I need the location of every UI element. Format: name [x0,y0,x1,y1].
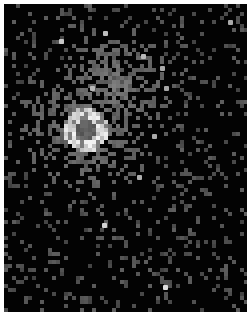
pixel [204,148,208,152]
pixel [180,36,184,40]
pixel [24,64,28,68]
pixel [4,308,8,312]
pixel [80,28,84,32]
pixel [188,180,192,184]
pixel [188,280,192,284]
pixel [100,212,104,216]
pixel [144,20,148,24]
pixel [36,140,40,144]
pixel [64,48,68,52]
pixel [68,208,72,212]
pixel [152,28,156,32]
point-source [102,223,107,228]
pixel [244,60,247,64]
pixel [204,240,208,244]
pixel [160,184,164,188]
pixel [112,180,116,184]
pixel [28,132,32,136]
pixel [164,156,168,160]
pixel [144,144,148,148]
pixel [12,20,16,24]
pixel [168,300,172,304]
pixel [56,236,60,240]
pixel [212,48,216,52]
pixel [128,132,132,136]
pixel [140,132,144,136]
pixel [200,20,204,24]
pixel [140,152,144,156]
pixel [136,124,140,128]
pixel [12,288,16,292]
pixel [224,176,228,180]
pixel [128,216,132,220]
pixel [224,140,228,144]
pixel [136,88,140,92]
pixel [128,180,132,184]
pixel [188,152,192,156]
pixel [8,256,12,260]
pixel [172,252,176,256]
pixel [192,196,196,200]
pixel [60,88,64,92]
pixel [32,44,36,48]
pixel [148,152,152,156]
pixel [160,76,164,80]
pixel [36,224,40,228]
pixel [80,80,84,84]
pixel [148,124,152,128]
pixel [68,184,72,188]
pixel [64,296,68,300]
pixel [192,12,196,16]
pixel [232,152,236,156]
pixel [156,116,160,120]
pixel [72,16,76,20]
pixel [64,240,68,244]
pixel [32,276,36,280]
pixel [228,212,232,216]
pixel [8,132,12,136]
pixel [148,248,152,252]
pixel [168,100,172,104]
pixel [236,308,240,312]
pixel [192,232,196,236]
pixel [180,160,184,164]
pixel [120,132,124,136]
pixel [236,88,240,92]
pixel [244,300,247,304]
pixel [52,112,56,116]
pixel [240,156,244,160]
pixel [136,260,140,264]
pixel [72,296,76,300]
pixel [132,156,136,160]
pixel [212,216,216,220]
pixel [200,140,204,144]
pixel [196,244,200,248]
pixel [184,104,188,108]
pixel [156,176,160,180]
pixel [108,132,112,136]
pixel [48,192,52,196]
pixel [28,12,32,16]
pixel [224,276,228,280]
pixel [56,148,60,152]
pixel [180,128,184,132]
pixel [196,128,200,132]
pixel [88,264,92,268]
pixel [184,44,188,48]
pixel [208,144,212,148]
pixel [92,308,96,312]
pixel [28,196,32,200]
pixel [12,96,16,100]
pixel [108,264,112,268]
pixel [44,16,48,20]
pixel [84,48,88,52]
pixel [24,184,28,188]
pixel [72,64,76,68]
pixel [148,256,152,260]
pixel [212,204,216,208]
pixel [180,24,184,28]
pixel [200,176,204,180]
pixel [132,96,136,100]
pixel [160,8,164,12]
pixel [152,88,156,92]
